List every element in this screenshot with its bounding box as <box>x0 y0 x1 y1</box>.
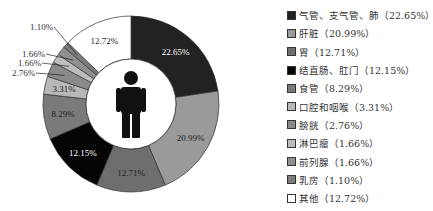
legend-item: 乳房（1.10%） <box>287 171 427 189</box>
legend-item: 食管（8.29%） <box>287 79 427 97</box>
legend-label: 结直肠、肛门（12.15%） <box>299 63 415 77</box>
legend-swatch <box>287 84 296 93</box>
legend-swatch <box>287 29 296 38</box>
slice-label: 22.65% <box>162 47 190 57</box>
slice-label: 12.71% <box>117 168 145 178</box>
legend-item: 肝脏（20.99%） <box>287 24 427 42</box>
legend-item: 淋巴瘤（1.66%） <box>287 134 427 152</box>
slice-label: 20.99% <box>177 133 205 143</box>
legend-swatch <box>287 66 296 75</box>
legend-item: 胃（12.71%） <box>287 43 427 61</box>
legend-label: 气管、支气管、肺（22.65%） <box>299 8 433 22</box>
legend: 气管、支气管、肺（22.65%）肝脏（20.99%）胃（12.71%）结直肠、肛… <box>287 6 427 207</box>
slice-label: 8.29% <box>52 109 76 119</box>
legend-swatch <box>287 157 296 166</box>
slice-label: 12.15% <box>69 148 97 158</box>
legend-label: 膀胱（2.76%） <box>299 118 369 132</box>
legend-swatch <box>287 120 296 129</box>
legend-swatch <box>287 47 296 56</box>
legend-swatch <box>287 102 296 111</box>
slice-label: 12.72% <box>90 36 118 46</box>
legend-item: 气管、支气管、肺（22.65%） <box>287 6 427 24</box>
legend-swatch <box>287 139 296 148</box>
legend-swatch <box>287 194 296 203</box>
legend-label: 淋巴瘤（1.66%） <box>299 136 379 150</box>
legend-label: 胃（12.71%） <box>299 45 365 59</box>
legend-item: 膀胱（2.76%） <box>287 116 427 134</box>
legend-label: 口腔和咽喉（3.31%） <box>299 100 399 114</box>
slice-label: 1.66% <box>22 49 46 59</box>
legend-swatch <box>287 175 296 184</box>
donut-chart: 22.65%20.99%12.71%12.15%8.29%3.31%2.76%1… <box>0 0 280 211</box>
slice-label: 1.10% <box>30 22 54 32</box>
legend-label: 其他（12.72%） <box>299 191 375 205</box>
legend-item: 前列腺（1.66%） <box>287 152 427 170</box>
slice-label: 1.66% <box>18 58 42 68</box>
legend-item: 口腔和咽喉（3.31%） <box>287 97 427 115</box>
legend-item: 其他（12.72%） <box>287 189 427 207</box>
legend-label: 乳房（1.10%） <box>299 173 369 187</box>
slice-label: 3.31% <box>52 84 76 94</box>
slice-label: 2.76% <box>12 68 36 78</box>
legend-label: 肝脏（20.99%） <box>299 26 375 40</box>
legend-label: 食管（8.29%） <box>299 81 369 95</box>
legend-label: 前列腺（1.66%） <box>299 155 379 169</box>
legend-item: 结直肠、肛门（12.15%） <box>287 61 427 79</box>
legend-swatch <box>287 11 296 20</box>
